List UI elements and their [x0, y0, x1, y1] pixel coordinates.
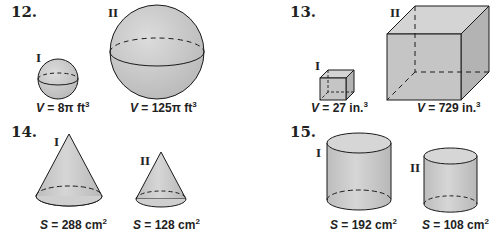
cylinder-small	[424, 148, 477, 212]
caption-13-II: V = 729 in.3	[417, 100, 481, 115]
figure-label-13-I: I	[315, 58, 320, 74]
figure-label-12-II: II	[108, 5, 118, 21]
figures-canvas	[0, 0, 494, 237]
problem-number-12: 12.	[11, 3, 37, 21]
figure-label-15-II: II	[410, 160, 420, 176]
figure-label-15-I: I	[316, 145, 321, 161]
caption-15-I: S = 192 cm2	[330, 217, 397, 232]
caption-15-II: S = 108 cm2	[422, 217, 489, 232]
caption-13-I: V = 27 in.3	[311, 100, 368, 115]
figure-label-14-II: II	[140, 153, 150, 169]
cube-small	[320, 70, 354, 100]
figure-label-13-II: II	[390, 5, 400, 21]
sphere-large	[110, 5, 204, 99]
problem-number-14: 14.	[11, 123, 37, 141]
sphere-small	[38, 59, 78, 99]
figure-label-14-I: I	[54, 134, 59, 150]
caption-12-I: V = 8π ft3	[36, 100, 89, 115]
problem-number-13: 13.	[290, 3, 316, 21]
caption-14-I: S = 288 cm2	[40, 217, 107, 232]
problem-number-15: 15.	[290, 123, 316, 141]
figure-label-12-I: I	[36, 50, 41, 66]
caption-12-II: V = 125π ft3	[130, 100, 197, 115]
cylinder-large	[327, 133, 391, 210]
cube-large	[387, 6, 489, 100]
caption-14-II: S = 128 cm2	[133, 217, 200, 232]
cone-large	[36, 134, 102, 206]
